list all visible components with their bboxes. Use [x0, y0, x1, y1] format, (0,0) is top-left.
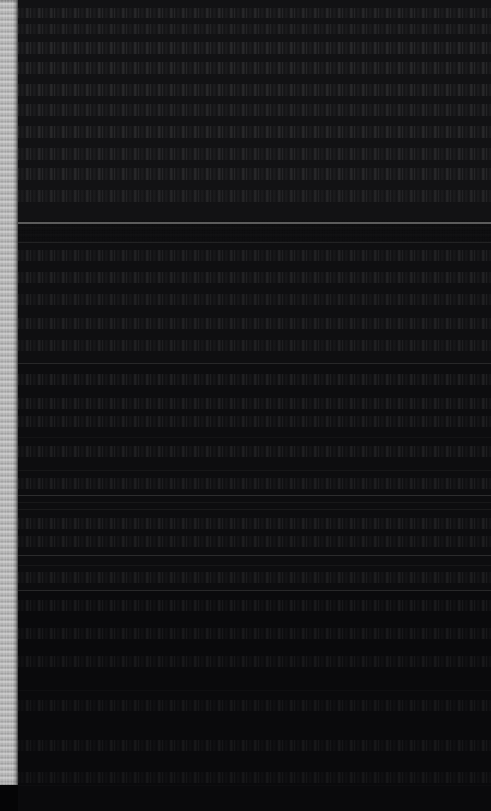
text-line	[18, 740, 491, 751]
row-divider	[18, 555, 491, 556]
row-divider	[18, 785, 491, 786]
text-line	[18, 374, 491, 385]
text-line	[18, 272, 491, 283]
row-divider	[18, 502, 491, 503]
row-divider	[18, 222, 491, 224]
text-line	[18, 190, 491, 202]
row-divider	[18, 509, 491, 510]
text-line	[18, 600, 491, 611]
text-line	[18, 518, 491, 529]
text-line	[18, 446, 491, 457]
text-line	[18, 148, 491, 160]
text-line	[18, 318, 491, 329]
row-divider	[18, 590, 491, 591]
vertical-scrollbar-thumb[interactable]	[0, 0, 18, 785]
text-line	[18, 536, 491, 547]
text-line	[18, 126, 491, 138]
text-line	[18, 24, 491, 34]
row-divider	[18, 363, 491, 364]
row-divider	[18, 495, 491, 496]
text-line	[18, 294, 491, 305]
text-line	[18, 42, 491, 54]
row-divider	[18, 470, 491, 471]
text-line	[18, 478, 491, 489]
text-line	[18, 250, 491, 261]
text-line	[18, 168, 491, 180]
text-line	[18, 572, 491, 583]
text-line	[18, 340, 491, 351]
text-line	[18, 104, 491, 116]
row-divider	[18, 690, 491, 691]
text-line	[18, 398, 491, 409]
app-window	[0, 0, 491, 811]
text-line	[18, 84, 491, 96]
row-divider	[18, 242, 491, 243]
row-divider	[18, 565, 491, 566]
vertical-scrollbar-track[interactable]	[0, 0, 18, 811]
text-line	[18, 62, 491, 74]
text-line	[18, 416, 491, 427]
text-line	[18, 656, 491, 667]
text-line	[18, 628, 491, 639]
text-line	[18, 8, 491, 18]
row-divider	[18, 437, 491, 438]
content-pane[interactable]	[18, 0, 491, 811]
text-line	[18, 772, 491, 783]
text-line	[18, 700, 491, 711]
